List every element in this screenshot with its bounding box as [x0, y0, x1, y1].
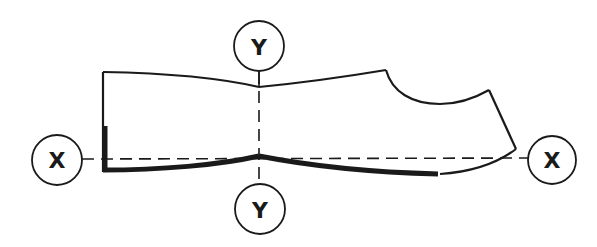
x-axis-right-marker: X [528, 136, 576, 184]
x-axis-left-marker: X [32, 135, 82, 185]
y-axis-top-marker: Y [234, 21, 284, 87]
x-right-label: X [544, 148, 561, 173]
y-top-label: Y [250, 35, 268, 60]
y-bottom-label: Y [251, 198, 269, 223]
x-axis-line [82, 158, 528, 159]
x-left-label: X [49, 148, 66, 173]
diagram-canvas: Y Y X X [0, 0, 597, 247]
sole-thick-line [103, 126, 438, 174]
y-axis-bottom-marker: Y [235, 184, 285, 234]
